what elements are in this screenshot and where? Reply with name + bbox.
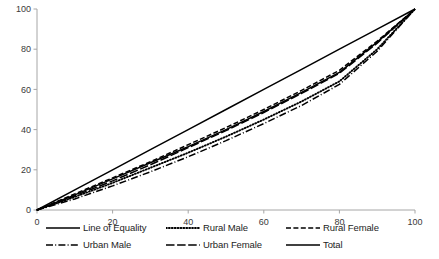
chart-legend: Line of EqualityRural MaleRural FemaleUr… <box>46 219 434 253</box>
legend-label: Urban Female <box>203 239 262 250</box>
legend-swatch-solid-icon <box>286 240 320 250</box>
legend-swatch-long-dash-icon <box>166 240 200 250</box>
lorenz-curve-chart: 020406080100020406080100 Line of Equalit… <box>0 0 439 259</box>
y-tick-label: 40 <box>21 125 31 135</box>
legend-swatch-dashed-icon <box>286 223 320 233</box>
legend-item-rural-female[interactable]: Rural Female <box>286 219 426 236</box>
y-tick-label: 60 <box>21 85 31 95</box>
x-tick-label: 0 <box>34 217 39 227</box>
legend-item-urban-male[interactable]: Urban Male <box>46 236 166 253</box>
legend-swatch-solid-icon <box>46 223 80 233</box>
y-tick-label: 20 <box>21 165 31 175</box>
legend-item-urban-female[interactable]: Urban Female <box>166 236 286 253</box>
legend-label: Urban Male <box>83 239 131 250</box>
legend-label: Total <box>323 239 343 250</box>
series-line-line-of-equality <box>37 9 415 210</box>
legend-label: Rural Male <box>203 222 248 233</box>
legend-item-line-of-equality[interactable]: Line of Equality <box>46 219 166 236</box>
legend-swatch-dash-dot-icon <box>46 240 80 250</box>
y-tick-label: 0 <box>26 205 31 215</box>
y-tick-label: 80 <box>21 44 31 54</box>
legend-label: Line of Equality <box>83 222 146 233</box>
legend-item-rural-male[interactable]: Rural Male <box>166 219 286 236</box>
legend-label: Rural Female <box>323 222 379 233</box>
y-tick-label: 100 <box>16 4 31 14</box>
legend-swatch-dotted-icon <box>166 223 200 233</box>
data-series <box>37 9 415 210</box>
legend-item-total[interactable]: Total <box>286 236 426 253</box>
